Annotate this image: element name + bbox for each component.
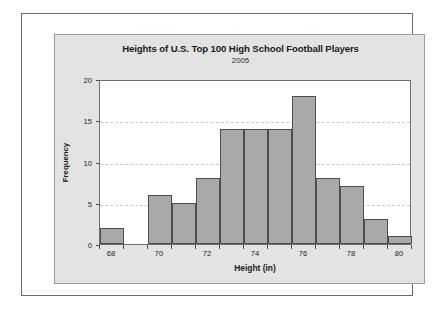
y-tick-label-15: 15 bbox=[70, 117, 92, 126]
bar-78 bbox=[340, 186, 364, 244]
bar-80 bbox=[388, 236, 412, 244]
x-tick-label-74: 74 bbox=[243, 249, 267, 258]
x-tick-mark-80.5 bbox=[411, 245, 412, 249]
bar-70 bbox=[148, 195, 172, 245]
y-tick-label-20: 20 bbox=[70, 76, 92, 85]
figure-outer-frame: Heights of U.S. Top 100 High School Foot… bbox=[21, 13, 413, 296]
chart-title: Heights of U.S. Top 100 High School Foot… bbox=[55, 43, 426, 54]
plot-area bbox=[99, 80, 411, 245]
page-canvas: Heights of U.S. Top 100 High School Foot… bbox=[0, 0, 435, 312]
y-tick-label-10: 10 bbox=[70, 158, 92, 167]
x-tick-label-80: 80 bbox=[387, 249, 411, 258]
chart-subtitle: 2005 bbox=[55, 56, 426, 65]
bar-71 bbox=[172, 203, 196, 244]
x-tick-label-78: 78 bbox=[339, 249, 363, 258]
chart-panel: Heights of U.S. Top 100 High School Foot… bbox=[54, 34, 425, 284]
x-axis-title: Height (in) bbox=[99, 263, 411, 273]
bar-76 bbox=[292, 96, 316, 245]
x-tick-mark-76.5 bbox=[315, 245, 316, 249]
x-tick-label-68: 68 bbox=[99, 249, 123, 258]
y-tick-label-5: 5 bbox=[70, 199, 92, 208]
bar-73 bbox=[220, 129, 244, 245]
x-tick-label-76: 76 bbox=[291, 249, 315, 258]
x-tick-mark-78.5 bbox=[363, 245, 364, 249]
bar-74 bbox=[244, 129, 268, 245]
bar-68 bbox=[100, 228, 124, 245]
bar-77 bbox=[316, 178, 340, 244]
histogram-bars bbox=[100, 81, 410, 244]
bar-72 bbox=[196, 178, 220, 244]
x-tick-mark-74.5 bbox=[267, 245, 268, 249]
x-tick-mark-68.5 bbox=[123, 245, 124, 249]
x-tick-label-72: 72 bbox=[195, 249, 219, 258]
x-tick-mark-72.5 bbox=[219, 245, 220, 249]
bar-79 bbox=[364, 219, 388, 244]
bar-75 bbox=[268, 129, 292, 245]
x-tick-label-70: 70 bbox=[147, 249, 171, 258]
y-tick-label-0: 0 bbox=[70, 241, 92, 250]
x-tick-mark-70.5 bbox=[171, 245, 172, 249]
